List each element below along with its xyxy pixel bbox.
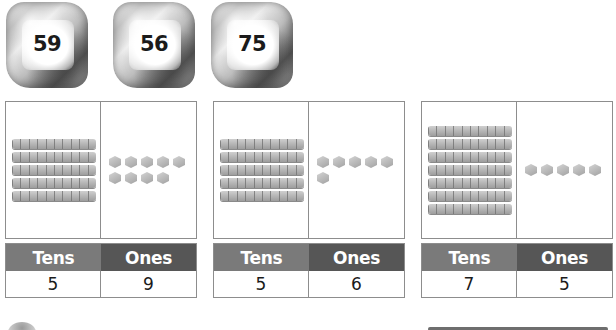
ice-cube-number: 56	[113, 32, 195, 56]
tens-value: 7	[422, 271, 517, 297]
ten-rod-icon	[220, 191, 304, 201]
ten-rod-icon	[428, 204, 512, 214]
ones-value: 5	[517, 271, 612, 297]
ice-cube-1: 59	[6, 2, 88, 88]
ones-value: 6	[309, 271, 404, 297]
place-value-chart-2: Tens Ones 5 6	[213, 101, 405, 298]
tens-rods	[428, 102, 514, 238]
unit-cube-icon	[557, 164, 569, 176]
ten-rod-icon	[220, 165, 304, 175]
place-value-table: Tens Ones 5 6	[213, 243, 405, 298]
ten-rod-icon	[220, 139, 304, 149]
ones-units	[109, 102, 192, 238]
ten-rod-icon	[428, 165, 512, 175]
tens-rods	[220, 102, 306, 238]
ones-value: 9	[101, 271, 196, 297]
unit-cube-icon	[141, 156, 153, 168]
ones-header: Ones	[517, 244, 612, 271]
bullet-icon	[8, 322, 36, 330]
unit-cube-icon	[173, 156, 185, 168]
base-ten-picture	[421, 101, 613, 239]
unit-cube-icon	[157, 156, 169, 168]
ones-units	[525, 102, 608, 238]
ten-rod-icon	[12, 178, 96, 188]
tens-rods	[12, 102, 98, 238]
unit-cube-icon	[573, 164, 585, 176]
tens-value: 5	[6, 271, 101, 297]
unit-cube-icon	[125, 156, 137, 168]
ten-rod-icon	[428, 191, 512, 201]
place-value-chart-3: Tens Ones 7 5	[421, 101, 613, 298]
ten-rod-icon	[12, 152, 96, 162]
ones-header: Ones	[309, 244, 404, 271]
ice-cube-2: 56	[113, 2, 195, 88]
tens-picture-column	[6, 102, 101, 238]
ten-rod-icon	[428, 139, 512, 149]
ten-rod-icon	[428, 126, 512, 136]
unit-cube-icon	[109, 172, 121, 184]
unit-cube-icon	[365, 156, 377, 168]
unit-cube-icon	[541, 164, 553, 176]
unit-cube-icon	[109, 156, 121, 168]
base-ten-picture	[213, 101, 405, 239]
ten-rod-icon	[12, 165, 96, 175]
unit-cube-icon	[525, 164, 537, 176]
tens-header: Tens	[6, 244, 101, 271]
place-value-table: Tens Ones 7 5	[421, 243, 613, 298]
ten-rod-icon	[428, 152, 512, 162]
ones-units	[317, 102, 400, 238]
base-ten-picture	[5, 101, 197, 239]
ice-cube-number: 75	[211, 32, 293, 56]
ten-rod-icon	[220, 152, 304, 162]
ice-cube-3: 75	[211, 2, 293, 88]
place-value-chart-1: Tens Ones 5 9	[5, 101, 197, 298]
ten-rod-icon	[428, 178, 512, 188]
ones-picture-column	[517, 102, 612, 238]
unit-cube-icon	[157, 172, 169, 184]
ten-rod-icon	[220, 178, 304, 188]
tens-header: Tens	[422, 244, 517, 271]
ice-cube-number: 59	[6, 32, 88, 56]
unit-cube-icon	[141, 172, 153, 184]
tens-picture-column	[422, 102, 517, 238]
unit-cube-icon	[125, 172, 137, 184]
unit-cube-icon	[317, 156, 329, 168]
place-value-table: Tens Ones 5 9	[5, 243, 197, 298]
tens-header: Tens	[214, 244, 309, 271]
unit-cube-icon	[349, 156, 361, 168]
unit-cube-icon	[589, 164, 601, 176]
tens-picture-column	[214, 102, 309, 238]
ten-rod-icon	[12, 139, 96, 149]
ones-header: Ones	[101, 244, 196, 271]
tens-value: 5	[214, 271, 309, 297]
ones-picture-column	[101, 102, 196, 238]
ones-picture-column	[309, 102, 404, 238]
unit-cube-icon	[381, 156, 393, 168]
unit-cube-icon	[317, 172, 329, 184]
ten-rod-icon	[12, 191, 96, 201]
unit-cube-icon	[333, 156, 345, 168]
